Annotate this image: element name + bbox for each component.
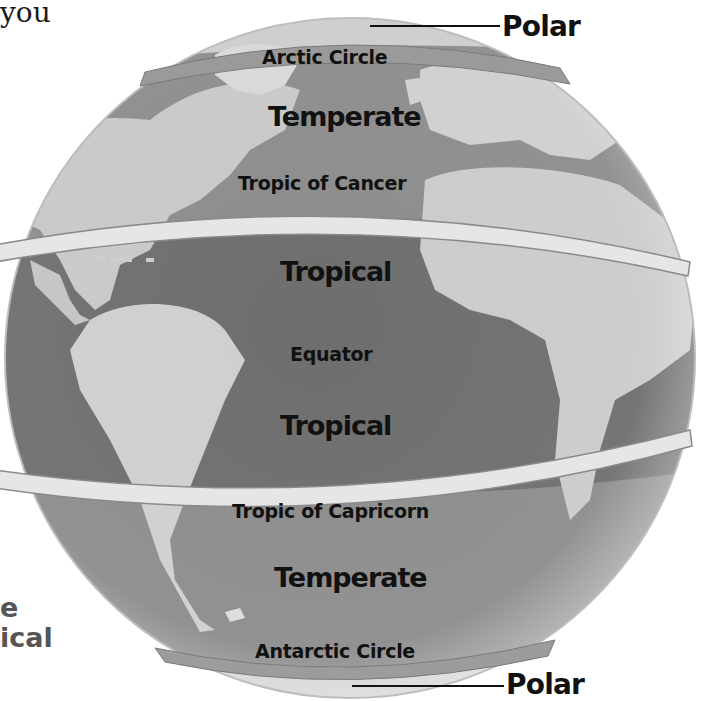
tropic-of-capricorn-label: Tropic of Capricorn (232, 500, 429, 522)
page-text-fragment-bottom-1: e (0, 592, 18, 624)
north-polar-leader-line (370, 25, 500, 27)
north-tropical-label: Tropical (280, 256, 391, 287)
south-tropical-label: Tropical (280, 410, 391, 441)
page-text-fragment-bottom-2: ical (0, 622, 53, 654)
antarctic-circle-label: Antarctic Circle (255, 640, 415, 662)
climate-zones-diagram: you e ical Polar Arctic Circle Temperate… (0, 0, 704, 701)
north-polar-label: Polar (502, 10, 580, 43)
page-text-fragment-top: you (0, 0, 51, 29)
arctic-circle-label: Arctic Circle (262, 46, 387, 68)
equator-label: Equator (290, 343, 372, 365)
south-temperate-label: Temperate (274, 562, 427, 593)
tropic-of-cancer-label: Tropic of Cancer (238, 172, 406, 194)
south-polar-label: Polar (506, 668, 584, 701)
north-temperate-label: Temperate (268, 101, 421, 132)
south-polar-leader-line (352, 685, 504, 687)
